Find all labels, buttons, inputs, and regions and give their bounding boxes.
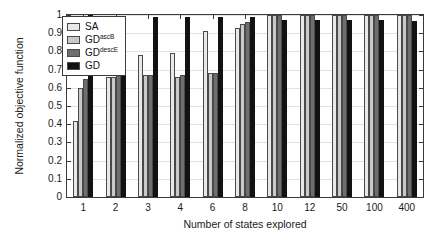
x-tick-mark xyxy=(180,193,181,197)
x-tick-mark xyxy=(83,193,84,197)
x-tick-mark xyxy=(342,15,343,19)
x-tick-mark xyxy=(245,15,246,19)
bar-group xyxy=(332,15,352,197)
bar-group xyxy=(235,15,255,197)
bar-group xyxy=(397,15,417,197)
bar xyxy=(250,17,255,197)
legend-swatch xyxy=(67,62,80,70)
bar xyxy=(379,20,384,197)
figure: Normalized objective function 00.10.20.3… xyxy=(0,0,440,251)
legend-label: SA xyxy=(85,22,98,32)
y-tick-mark xyxy=(67,106,71,107)
bar-group xyxy=(203,15,223,197)
x-tick-mark xyxy=(245,193,246,197)
y-tick-label: 0.4 xyxy=(22,119,62,129)
x-tick-mark xyxy=(374,193,375,197)
x-tick-mark xyxy=(180,15,181,19)
x-tick-mark xyxy=(342,193,343,197)
y-tick-label: 1 xyxy=(22,10,62,20)
legend: SAGDascBGDdescEGD xyxy=(62,16,126,76)
x-tick-label: 400 xyxy=(387,202,427,213)
bar xyxy=(315,20,320,197)
y-tick-label: 0.1 xyxy=(22,174,62,184)
y-tick-label: 0.7 xyxy=(22,65,62,75)
bar xyxy=(282,20,287,197)
y-tick-mark xyxy=(419,124,423,125)
legend-item: SA xyxy=(67,20,118,33)
y-tick-mark xyxy=(419,106,423,107)
x-tick-mark xyxy=(407,193,408,197)
y-tick-mark xyxy=(419,33,423,34)
y-tick-mark xyxy=(419,70,423,71)
y-tick-label: 0.6 xyxy=(22,83,62,93)
x-tick-mark xyxy=(407,15,408,19)
y-tick-label: 0.2 xyxy=(22,156,62,166)
x-tick-mark xyxy=(277,193,278,197)
bar-group xyxy=(267,15,287,197)
y-tick-mark xyxy=(419,51,423,52)
y-tick-mark xyxy=(419,15,423,16)
legend-label-superscript: descE xyxy=(100,46,118,53)
y-tick-label: 0.3 xyxy=(22,137,62,147)
legend-label-superscript: ascB xyxy=(100,33,114,40)
x-axis-title: Number of states explored xyxy=(66,218,424,230)
y-tick-mark xyxy=(67,179,71,180)
x-tick-mark xyxy=(374,15,375,19)
legend-label: GD xyxy=(85,61,100,71)
x-tick-mark xyxy=(310,193,311,197)
y-tick-mark xyxy=(419,142,423,143)
legend-item: GDascB xyxy=(67,33,118,46)
y-tick-mark xyxy=(419,179,423,180)
y-tick-label: 0.5 xyxy=(22,101,62,111)
legend-swatch xyxy=(67,36,80,44)
y-tick-mark xyxy=(419,161,423,162)
x-tick-mark xyxy=(310,15,311,19)
legend-label: GDascB xyxy=(85,34,114,45)
x-tick-mark xyxy=(148,15,149,19)
y-tick-mark xyxy=(67,88,71,89)
legend-swatch xyxy=(67,23,80,31)
legend-swatch xyxy=(67,49,80,57)
y-tick-mark xyxy=(67,142,71,143)
y-tick-mark xyxy=(67,161,71,162)
bar-group xyxy=(170,15,190,197)
x-tick-mark xyxy=(116,193,117,197)
y-tick-mark xyxy=(419,88,423,89)
x-tick-mark xyxy=(148,193,149,197)
bar xyxy=(347,20,352,197)
y-tick-label: 0 xyxy=(22,192,62,202)
bar xyxy=(153,17,158,197)
bar-group xyxy=(138,15,158,197)
legend-item: GDdescE xyxy=(67,46,118,59)
x-tick-mark xyxy=(213,15,214,19)
bar xyxy=(412,21,417,197)
x-tick-mark xyxy=(213,193,214,197)
legend-label: GDdescE xyxy=(85,47,118,58)
y-tick-label: 0.8 xyxy=(22,46,62,56)
bar-group xyxy=(300,15,320,197)
bar xyxy=(185,17,190,197)
x-tick-mark xyxy=(277,15,278,19)
bar xyxy=(218,17,223,197)
y-tick-mark xyxy=(419,197,423,198)
y-tick-label: 0.9 xyxy=(22,28,62,38)
bar-group xyxy=(364,15,384,197)
legend-item: GD xyxy=(67,59,118,72)
y-tick-mark xyxy=(67,197,71,198)
y-tick-mark xyxy=(67,124,71,125)
